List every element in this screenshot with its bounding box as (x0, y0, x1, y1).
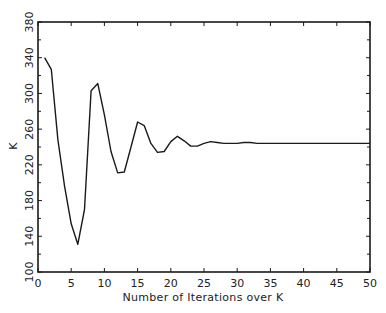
y-axis-title: K (7, 142, 20, 150)
y-tick-label: 220 (23, 154, 36, 175)
x-tick-label: 45 (330, 277, 344, 290)
x-tick-label: 50 (363, 277, 377, 290)
x-tick-label: 25 (197, 277, 211, 290)
x-tick-label: 5 (68, 277, 75, 290)
x-tick-label: 10 (97, 277, 111, 290)
x-tick-label: 15 (131, 277, 145, 290)
y-tick-label: 100 (23, 262, 36, 283)
line-chart: 05101520253035404550 1001401802202603003… (0, 0, 386, 313)
y-tick-label: 340 (23, 47, 36, 68)
y-tick-label: 300 (23, 83, 36, 104)
x-tick-labels: 05101520253035404550 (35, 277, 378, 290)
y-tick-label: 260 (23, 119, 36, 140)
x-tick-label: 30 (230, 277, 244, 290)
x-axis-title: Number of Iterations over K (122, 291, 283, 304)
y-tick-label: 380 (23, 12, 36, 33)
y-tick-labels: 100140180220260300340380 (23, 12, 36, 283)
series-line-k (45, 58, 370, 245)
x-tick-label: 35 (263, 277, 277, 290)
y-tick-label: 180 (23, 190, 36, 211)
y-tick-label: 140 (23, 226, 36, 247)
x-tick-label: 20 (164, 277, 178, 290)
x-tick-label: 40 (297, 277, 311, 290)
